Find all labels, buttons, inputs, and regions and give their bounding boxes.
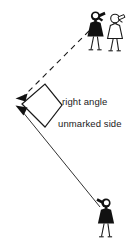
diagram-canvas: right angle unmarked side (0, 0, 136, 241)
figure-top-dark-face (93, 13, 98, 18)
figure-top-light-body (108, 24, 123, 39)
unmarked-side-label: unmarked side (58, 118, 122, 129)
figure-top-light-head (111, 14, 120, 23)
figure-bottom-dark-face (104, 200, 109, 205)
geometry-diagram: right angle unmarked side (0, 0, 136, 241)
right-angle-label: right angle (62, 96, 107, 107)
